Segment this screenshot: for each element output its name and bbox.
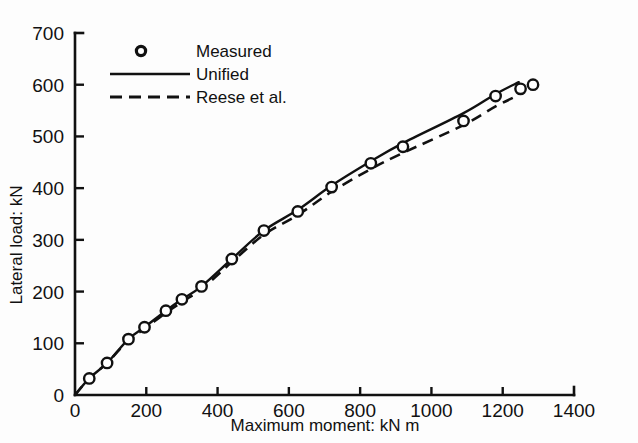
y-tick-label: 0 — [53, 385, 64, 406]
y-tick-label: 100 — [32, 333, 64, 354]
chart-background — [0, 0, 638, 443]
data-point-measured — [84, 373, 94, 383]
data-point-measured — [139, 322, 149, 332]
data-point-measured — [326, 182, 336, 192]
y-tick-label: 700 — [32, 23, 64, 44]
x-tick-label: 1200 — [482, 400, 524, 421]
y-tick-label: 200 — [32, 282, 64, 303]
lateral-load-vs-moment-chart: 0200400600800100012001400010020030040050… — [0, 0, 638, 443]
data-point-measured — [196, 281, 206, 291]
chart-figure: 0200400600800100012001400010020030040050… — [0, 0, 638, 443]
data-point-measured — [259, 225, 269, 235]
data-point-measured — [293, 206, 303, 216]
data-point-measured — [102, 358, 112, 368]
x-tick-label: 0 — [70, 400, 81, 421]
x-tick-label: 200 — [130, 400, 162, 421]
data-point-measured — [366, 158, 376, 168]
data-point-measured — [161, 306, 171, 316]
data-point-measured — [458, 116, 468, 126]
y-tick-label: 300 — [32, 230, 64, 251]
x-axis-title: Maximum moment: kN m — [231, 416, 420, 435]
legend-label-unified: Unified — [196, 65, 249, 84]
x-tick-label: 400 — [202, 400, 234, 421]
y-tick-label: 400 — [32, 178, 64, 199]
legend-label-measured: Measured — [196, 42, 272, 61]
y-tick-label: 600 — [32, 75, 64, 96]
legend-label-reese: Reese et al. — [196, 88, 287, 107]
legend-measured-icon — [136, 46, 145, 55]
y-tick-label: 500 — [32, 126, 64, 147]
data-point-measured — [515, 84, 525, 94]
data-point-measured — [177, 294, 187, 304]
data-point-measured — [490, 91, 500, 101]
data-point-measured — [528, 80, 538, 90]
data-point-measured — [227, 254, 237, 264]
data-point-measured — [398, 142, 408, 152]
y-axis-title: Lateral load: kN — [7, 185, 26, 304]
data-point-measured — [123, 334, 133, 344]
x-tick-label: 1400 — [553, 400, 595, 421]
